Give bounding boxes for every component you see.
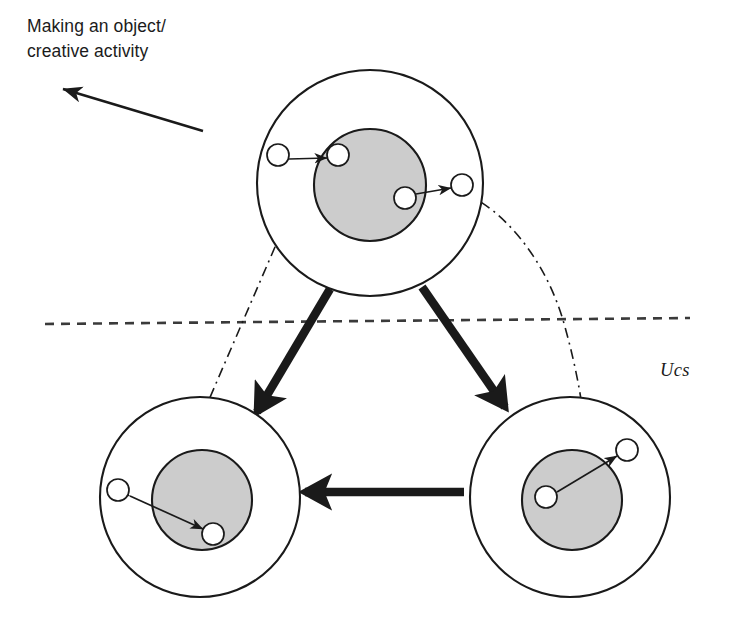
page-title: Making an object/ creative activity xyxy=(27,14,307,64)
unit-top-unit xyxy=(257,70,483,296)
unit-group xyxy=(100,70,670,597)
diagram-svg xyxy=(0,0,732,632)
node-top-right-outer-node xyxy=(451,174,473,196)
unit-bottom-left-unit xyxy=(100,397,300,597)
node-top-left-outer-node xyxy=(267,144,289,166)
unconscious-boundary-line xyxy=(45,318,690,324)
figure-canvas: Making an object/ creative activity Ucs xyxy=(0,0,732,632)
node-br-outer-node xyxy=(616,439,638,461)
node-top-right-inner-node xyxy=(394,187,416,209)
node-bl-outer-node xyxy=(107,479,129,501)
node-br-inner-node xyxy=(535,486,557,508)
unit-bottom-right-unit xyxy=(470,397,670,597)
node-bl-inner-node xyxy=(202,523,224,545)
creative-activity-arrow xyxy=(63,89,203,131)
cycle-arrow-top-to-bottom-left xyxy=(257,289,330,412)
unconscious-region-label: Ucs xyxy=(660,360,690,381)
node-top-left-inner-node xyxy=(327,144,349,166)
cycle-arrow-top-to-bottom-right xyxy=(422,287,505,407)
relation-top-left-relation xyxy=(289,158,327,159)
